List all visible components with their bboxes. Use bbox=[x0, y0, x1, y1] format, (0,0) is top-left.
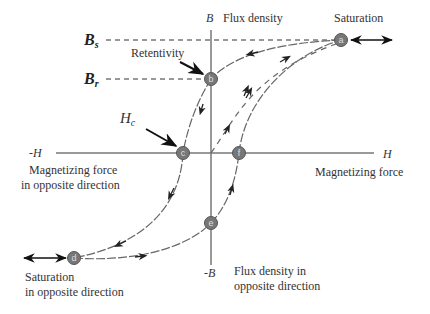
point-e: e bbox=[205, 217, 218, 230]
retentivity-label: Retentivity bbox=[131, 46, 184, 60]
point-d: d bbox=[68, 252, 81, 265]
svg-text:a: a bbox=[338, 35, 343, 45]
svg-text:b: b bbox=[208, 74, 213, 84]
flux-density-opposite-line1: Flux density in bbox=[234, 264, 306, 278]
bs-label: Bs bbox=[83, 31, 99, 50]
point-f: f bbox=[233, 147, 246, 160]
neg-b-axis-label: -B bbox=[204, 266, 216, 280]
arrow-initial-2 bbox=[244, 89, 247, 96]
neg-h-axis-label: -H bbox=[29, 146, 43, 160]
arrow-initial-3 bbox=[280, 58, 287, 62]
point-b: b bbox=[205, 73, 218, 86]
retentivity-pointer-arrow bbox=[180, 62, 203, 74]
b-axis-label: B bbox=[206, 11, 214, 25]
saturation-opposite-line1: Saturation bbox=[25, 270, 74, 284]
arrow-c-to-d-2 bbox=[118, 241, 126, 245]
flux-density-opposite-line2: opposite direction bbox=[234, 279, 320, 293]
hysteresis-diagram: a b c d e f B Flux density -H H -B Magne… bbox=[0, 0, 430, 314]
h-axis-label: H bbox=[382, 147, 393, 161]
point-a: a bbox=[335, 34, 348, 47]
flux-density-label: Flux density bbox=[223, 11, 283, 25]
br-label: Br bbox=[83, 70, 99, 89]
curve-a-to-b bbox=[211, 40, 341, 79]
hc-label: Hc bbox=[119, 110, 136, 128]
curve-f-to-a bbox=[239, 40, 341, 153]
magnetizing-force-opposite-line1: Magnetizing force bbox=[29, 163, 117, 177]
saturation-opposite-line2: in opposite direction bbox=[25, 285, 124, 299]
hc-pointer-arrow bbox=[146, 129, 176, 146]
curve-e-to-f bbox=[211, 153, 239, 223]
svg-text:c: c bbox=[181, 148, 186, 158]
svg-text:e: e bbox=[208, 218, 213, 228]
arrow-f-to-a bbox=[246, 91, 250, 98]
curve-b-to-c bbox=[183, 79, 211, 153]
magnetizing-force-opposite-line2: in opposite direction bbox=[21, 178, 120, 192]
arrow-b-to-c bbox=[201, 104, 203, 111]
svg-text:d: d bbox=[71, 253, 76, 263]
curve-initial-magnetization bbox=[211, 44, 336, 153]
point-c: c bbox=[177, 147, 190, 160]
saturation-label: Saturation bbox=[334, 11, 383, 25]
magnetizing-force-label: Magnetizing force bbox=[315, 165, 403, 179]
